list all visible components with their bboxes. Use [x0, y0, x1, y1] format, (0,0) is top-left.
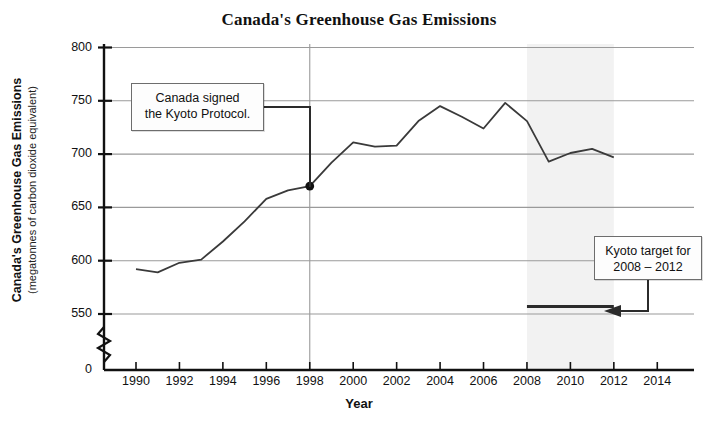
x-tick-label-2014: 2014 [632, 374, 682, 388]
y-tick-label-800: 800 [52, 40, 92, 54]
y-tick-label-550: 550 [52, 306, 92, 320]
y-tick-label-650: 650 [52, 199, 92, 213]
kyoto-target-callout-line-1: Kyoto target for [603, 243, 693, 259]
kyoto-signed-callout-line-1: Canada signed [140, 90, 255, 106]
plot-area [0, 0, 718, 438]
y-tick-label-0: 0 [52, 362, 92, 376]
kyoto-signed-connector [264, 107, 310, 187]
kyoto-signed-callout: Canada signed the Kyoto Protocol. [131, 83, 264, 131]
kyoto-target-callout: Kyoto target for 2008 – 2012 [594, 236, 702, 280]
y-tick-label-700: 700 [52, 146, 92, 160]
kyoto-target-connector [618, 280, 648, 311]
kyoto-signed-callout-line-2: the Kyoto Protocol. [140, 106, 255, 122]
y-tick-label-600: 600 [52, 253, 92, 267]
chart-container: Canada's Greenhouse Gas Emissions Canada… [0, 0, 718, 438]
y-tick-label-750: 750 [52, 93, 92, 107]
kyoto-target-callout-line-2: 2008 – 2012 [603, 259, 693, 275]
